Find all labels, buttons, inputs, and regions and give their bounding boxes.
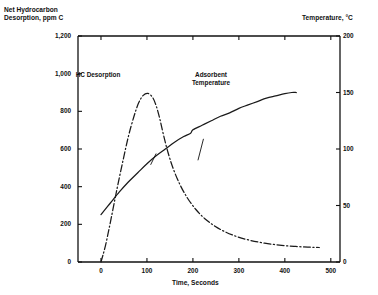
x-axis-title: Time, Seconds xyxy=(172,279,219,287)
y-axis-right-tick-label: 0 xyxy=(343,258,347,265)
y-axis-right-tick-label: 100 xyxy=(343,145,354,152)
y-axis-left-tick-label: 800 xyxy=(0,107,71,114)
y-axis-right-title: Temperature, °C xyxy=(302,14,353,22)
annotation-leader-lines xyxy=(151,139,204,165)
annotation-adsorbent-temperature: Adsorbent Temperature xyxy=(178,71,244,87)
series-line-adsorbent-temperature xyxy=(101,92,296,214)
axis-frame xyxy=(78,36,340,262)
y-axis-left-title-line1: Net Hydrocarbon xyxy=(4,6,58,13)
y-axis-left-title: Net HydrocarbonDesorption, ppm C xyxy=(4,6,63,23)
y-axis-left-tick-label: 1,000 xyxy=(0,70,71,77)
tick-marks xyxy=(78,36,340,262)
y-axis-left-tick-label: 0 xyxy=(0,258,71,265)
series-lines xyxy=(101,92,319,262)
x-axis-tick-label: 100 xyxy=(131,267,163,274)
x-axis-tick-label: 0 xyxy=(85,267,117,274)
chart-figure: Net HydrocarbonDesorption, ppm C Tempera… xyxy=(0,0,378,295)
y-axis-left-tick-label: 1,200 xyxy=(0,32,71,39)
x-axis-tick-label: 400 xyxy=(269,267,301,274)
y-axis-right-tick-label: 150 xyxy=(343,89,354,96)
y-axis-right-tick-label: 50 xyxy=(343,202,350,209)
x-axis-tick-label: 500 xyxy=(315,267,347,274)
y-axis-left-tick-label: 200 xyxy=(0,220,71,227)
x-axis-tick-label: 300 xyxy=(223,267,255,274)
annotation-hc-desorption: HC Desorption xyxy=(66,71,130,79)
y-axis-left-tick-label: 600 xyxy=(0,145,71,152)
y-axis-left-tick-label: 400 xyxy=(0,183,71,190)
y-axis-left-title-line2: Desorption, ppm C xyxy=(4,14,63,21)
y-axis-right-tick-label: 200 xyxy=(343,32,354,39)
series-line-hc-desorption xyxy=(101,93,319,262)
x-axis-tick-label: 200 xyxy=(177,267,209,274)
